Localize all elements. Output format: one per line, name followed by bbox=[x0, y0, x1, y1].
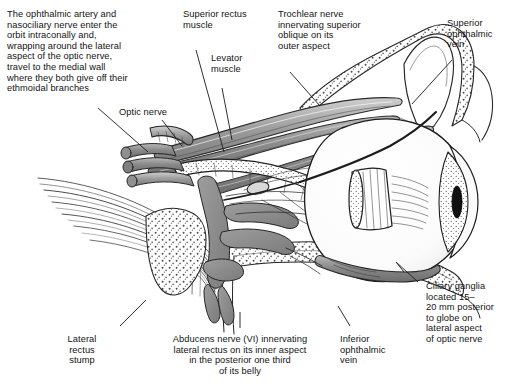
annotation-ophthalmic-artery-note: The ophthalmic artery and nasociliary ne… bbox=[7, 9, 169, 94]
leader-lateral-rectus-stump bbox=[120, 300, 146, 326]
leader-levator bbox=[222, 88, 232, 140]
figure-canvas: The ophthalmic artery and nasociliary ne… bbox=[0, 0, 518, 387]
leader-trochlear-nerve bbox=[290, 72, 320, 106]
annotation-trochlear-nerve: Trochlear nerve innervating superior obl… bbox=[278, 9, 388, 51]
annotation-superior-ophthalmic-vein: Superior ophthalmic vein bbox=[447, 18, 515, 50]
annotation-superior-rectus-muscle: Superior rectus muscle bbox=[183, 9, 278, 30]
leader-ciliary-ganglia bbox=[396, 262, 418, 282]
leader-superior-ophthalmic-vein bbox=[412, 60, 452, 104]
annotation-ciliary-ganglia: Ciliary ganglia located 15– 20 mm poster… bbox=[426, 281, 518, 345]
leader-optic-nerve bbox=[162, 120, 182, 146]
annotation-optic-nerve: Optic nerve bbox=[119, 107, 189, 118]
annotation-levator-muscle: Levator muscle bbox=[211, 53, 271, 74]
annotation-lateral-rectus-stump: Lateral rectus stump bbox=[52, 334, 112, 366]
annotation-abducens-nerve: Abducens nerve (VI) innervating lateral … bbox=[140, 334, 340, 376]
annotation-inferior-ophthalmic-vein: Inferior ophthalmic vein bbox=[340, 334, 408, 366]
leader-inferior-ophthalmic-vein bbox=[338, 306, 350, 326]
leader-ciliary-ganglia-b bbox=[396, 262, 404, 272]
